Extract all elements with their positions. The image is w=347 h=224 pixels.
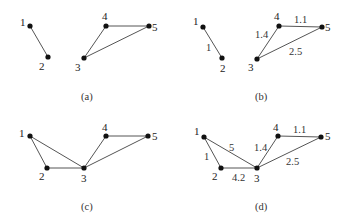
node-label-4: 4: [273, 121, 279, 133]
node-5: [318, 134, 323, 139]
node-1: [201, 134, 206, 139]
node-1: [27, 23, 32, 28]
caption-d: (d): [255, 201, 268, 213]
node-label-3: 3: [75, 61, 81, 73]
edge-3-4: [84, 136, 106, 168]
node-3: [254, 165, 259, 170]
node-4: [103, 23, 108, 28]
panel-c: 1 2 3 4 5 (c): [19, 121, 158, 213]
graph-figure: 1 2 3 4 5 (a) 1 2 3 4 5 1 1.4 1.1 2.5 (b…: [0, 0, 347, 224]
caption-a: (a): [81, 91, 93, 103]
node-label-5: 5: [325, 21, 331, 33]
node-label-3: 3: [81, 172, 87, 184]
node-label-4: 4: [102, 10, 108, 22]
node-3: [81, 55, 86, 60]
node-3: [254, 56, 259, 61]
edge-4-5: [278, 136, 321, 137]
node-label-4: 4: [274, 10, 280, 22]
caption-c: (c): [81, 201, 93, 213]
node-label-2: 2: [212, 170, 218, 182]
node-label-3: 3: [248, 61, 254, 73]
edge-weight-1-2: 1: [206, 42, 211, 53]
node-label-1: 1: [193, 15, 199, 27]
edge-weight-4-5: 1.1: [294, 14, 307, 25]
edge-weight-3-5: 2.5: [286, 156, 299, 167]
edge-weight-1-2: 1: [204, 151, 209, 162]
node-label-1: 1: [20, 16, 26, 28]
edge-3-4: [84, 26, 106, 58]
edge-weight-3-4: 1.4: [255, 29, 269, 40]
node-label-4: 4: [102, 121, 108, 133]
edge-weight-3-4: 1.4: [254, 142, 268, 153]
caption-b: (b): [255, 91, 268, 103]
edge-1-2: [30, 26, 48, 57]
node-4: [275, 133, 280, 138]
edge-weight-1-3: 5: [229, 142, 234, 153]
node-4: [103, 133, 108, 138]
edge-weight-4-5: 1.1: [293, 124, 306, 135]
node-3: [81, 165, 86, 170]
edge-3-5: [84, 136, 148, 168]
panel-b: 1 2 3 4 5 1 1.4 1.1 2.5 (b): [193, 10, 331, 103]
node-5: [319, 24, 324, 29]
node-label-1: 1: [19, 127, 25, 139]
node-label-5: 5: [152, 130, 158, 142]
node-5: [145, 133, 150, 138]
node-label-5: 5: [152, 21, 158, 33]
panel-d: 1 2 3 4 5 1 5 4.2 1.4 1.1 2.5 (d): [194, 121, 331, 213]
node-1: [27, 133, 32, 138]
node-5: [146, 23, 151, 28]
node-4: [276, 23, 281, 28]
node-2: [45, 54, 50, 59]
node-2: [219, 55, 224, 60]
edge-weight-3-5: 2.5: [289, 46, 302, 57]
edge-3-5: [84, 26, 149, 58]
node-2: [44, 165, 49, 170]
node-label-2: 2: [39, 60, 45, 72]
node-2: [218, 165, 223, 170]
edge-4-5: [279, 26, 322, 27]
node-label-5: 5: [325, 130, 331, 142]
node-label-2: 2: [39, 170, 45, 182]
edge-weight-2-3: 4.2: [232, 172, 245, 183]
node-label-2: 2: [220, 62, 226, 74]
panel-a: 1 2 3 4 5 (a): [20, 10, 158, 103]
node-label-3: 3: [254, 172, 260, 184]
node-label-1: 1: [194, 125, 200, 137]
node-1: [200, 24, 205, 29]
